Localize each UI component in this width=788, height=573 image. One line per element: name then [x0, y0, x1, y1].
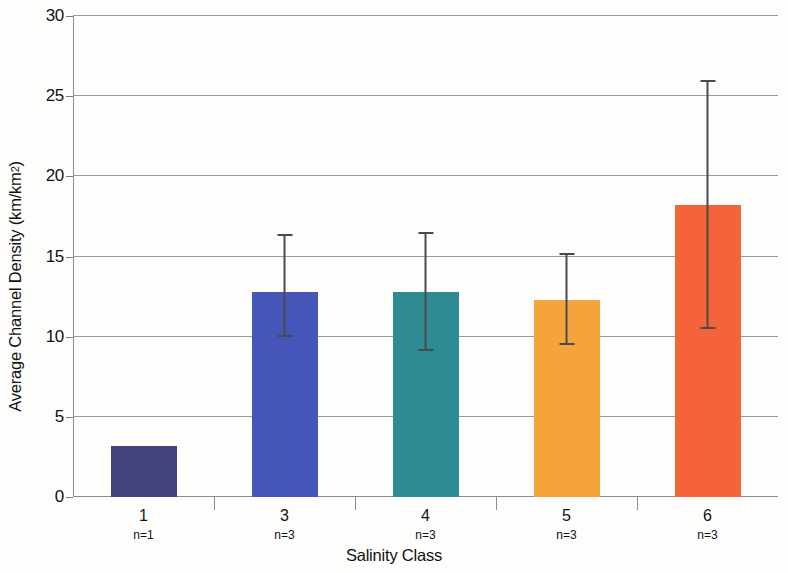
y-tick-mark	[66, 257, 73, 258]
error-bar-cap-bottom	[418, 349, 433, 351]
error-bar-cap-bottom	[559, 343, 574, 345]
error-bar	[700, 80, 715, 329]
x-category-label: 1n=1	[69, 505, 219, 544]
error-bar-cap-bottom	[700, 327, 715, 329]
x-category-name: 4	[351, 505, 501, 527]
x-category-name: 3	[210, 505, 360, 527]
bar-chart: Average Channel Density (km/km2) 0510152…	[0, 0, 788, 573]
y-axis-title-text: Average Channel Density (km/km	[6, 172, 25, 411]
y-tick-mark	[66, 176, 73, 177]
x-category-sample-size: n=1	[69, 527, 219, 544]
y-tick-label: 30	[4, 6, 64, 26]
x-category-sample-size: n=3	[492, 527, 642, 544]
bar[interactable]	[111, 446, 177, 497]
error-bar-cap-top	[559, 253, 574, 255]
bar-group	[496, 16, 637, 497]
y-tick-mark	[66, 337, 73, 338]
error-bar-stem	[425, 232, 427, 351]
error-bar-stem	[284, 234, 286, 337]
plot-area	[73, 16, 778, 497]
bar-group	[355, 16, 496, 497]
error-bar	[277, 234, 292, 337]
y-tick-label: 10	[4, 327, 64, 347]
x-category-label: 3n=3	[210, 505, 360, 544]
y-tick-label: 0	[4, 487, 64, 507]
error-bar-cap-top	[700, 80, 715, 82]
error-bar-cap-top	[277, 234, 292, 236]
x-category-label: 4n=3	[351, 505, 501, 544]
error-bar-stem	[707, 80, 709, 329]
x-category-sample-size: n=3	[210, 527, 360, 544]
x-category-name: 1	[69, 505, 219, 527]
y-tick-label: 25	[4, 86, 64, 106]
error-bar-cap-bottom	[277, 335, 292, 337]
x-category-sample-size: n=3	[351, 527, 501, 544]
x-category-name: 5	[492, 505, 642, 527]
y-tick-label: 5	[4, 407, 64, 427]
y-tick-mark	[66, 16, 73, 17]
y-tick-mark	[66, 417, 73, 418]
bar-group	[73, 16, 214, 497]
y-tick-label: 15	[4, 247, 64, 267]
error-bar-stem	[566, 253, 568, 344]
error-bar-cap-top	[418, 232, 433, 234]
error-bar	[559, 253, 574, 344]
bar-group	[637, 16, 778, 497]
x-axis-title: Salinity Class	[0, 546, 788, 565]
x-category-name: 6	[633, 505, 783, 527]
y-tick-mark	[66, 497, 73, 498]
x-category-sample-size: n=3	[633, 527, 783, 544]
error-bar	[418, 232, 433, 351]
y-tick-label: 20	[4, 166, 64, 186]
x-category-label: 5n=3	[492, 505, 642, 544]
bar-group	[214, 16, 355, 497]
y-tick-mark	[66, 96, 73, 97]
x-category-label: 6n=3	[633, 505, 783, 544]
